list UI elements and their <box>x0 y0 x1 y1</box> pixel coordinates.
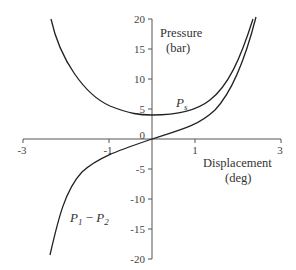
y-tick-label: -5 <box>136 163 146 175</box>
y-tick-label: -10 <box>130 193 145 205</box>
p1-minus-p2-label: P1 − P2 <box>69 210 109 227</box>
y-tick-label: 15 <box>134 43 146 55</box>
x-axis-title-line2: (deg) <box>225 171 251 185</box>
pressure-displacement-chart: -3 -1 1 3 20 15 10 5 0 -5 -10 -15 -20 Pr… <box>0 0 296 270</box>
x-tick-label: 3 <box>277 144 283 156</box>
ps-label: Ps <box>175 95 188 112</box>
y-tick-label: -20 <box>130 253 145 265</box>
y-tick-label: 20 <box>134 13 146 25</box>
y-tick-label: 5 <box>140 103 146 115</box>
y-axis-title-line2: (bar) <box>166 41 190 55</box>
y-tick-label: 0 <box>140 129 146 141</box>
x-tick-label: -3 <box>17 144 27 156</box>
y-tick-label: 10 <box>134 73 146 85</box>
x-tick-label: 1 <box>192 144 198 156</box>
x-axis-title-line1: Displacement <box>203 156 272 170</box>
x-tick-labels: -3 -1 1 3 <box>17 144 283 156</box>
y-tick-label: -15 <box>130 223 145 235</box>
y-axis-title-line1: Pressure <box>160 26 203 40</box>
